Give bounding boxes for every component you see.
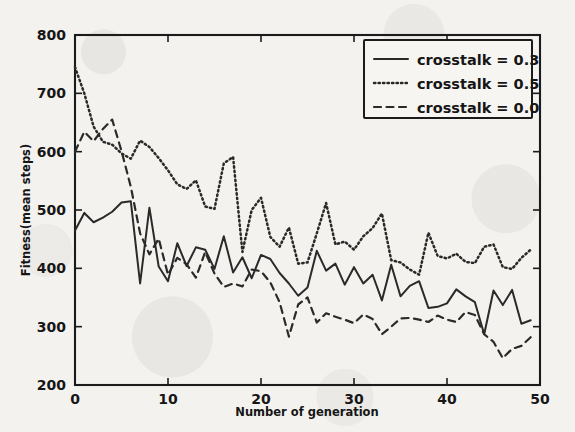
x-tick-label: 50: [530, 391, 550, 407]
x-tick-label: 40: [437, 391, 457, 407]
legend-label-2: crosstalk = 0.0: [417, 100, 539, 116]
y-tick-label: 200: [37, 377, 66, 393]
line-chart: 200300400500600700800 01020304050 Number…: [0, 0, 575, 432]
y-tick-label: 600: [37, 144, 66, 160]
x-tick-label: 10: [158, 391, 178, 407]
legend: crosstalk = 0.3crosstalk = 0.5crosstalk …: [364, 40, 539, 118]
x-axis-title: Number of generation: [235, 405, 378, 419]
legend-label-0: crosstalk = 0.3: [417, 52, 539, 68]
y-tick-label: 300: [37, 319, 66, 335]
series-line-2: [75, 120, 531, 359]
chart-figure: 200300400500600700800 01020304050 Number…: [0, 0, 575, 432]
x-tick-label: 0: [70, 391, 80, 407]
legend-label-1: crosstalk = 0.5: [417, 76, 539, 92]
y-tick-label: 400: [37, 260, 66, 276]
y-axis-title: Fitness(mean steps): [19, 144, 33, 276]
y-tick-label: 500: [37, 202, 66, 218]
y-tick-label: 800: [37, 27, 66, 43]
y-tick-label: 700: [37, 85, 66, 101]
